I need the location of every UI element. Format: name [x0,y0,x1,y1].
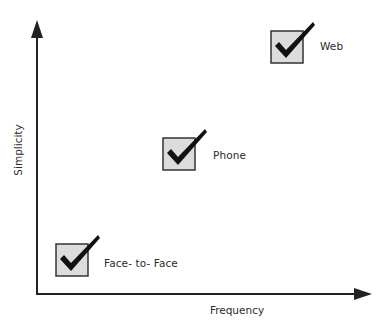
item-label-face-to-face: Face- to- Face [104,257,178,269]
x-axis-label: Frequency [210,304,264,316]
y-axis-arrow-icon [31,20,43,38]
y-axis-label: Simplicity [12,124,24,175]
checkbox-checked-icon [163,129,207,170]
checkbox-checked-icon [56,235,100,276]
x-axis-arrow-icon [354,288,372,300]
checkbox-checked-icon [271,22,315,63]
item-label-web: Web [320,40,343,52]
item-label-phone: Phone [213,149,246,161]
